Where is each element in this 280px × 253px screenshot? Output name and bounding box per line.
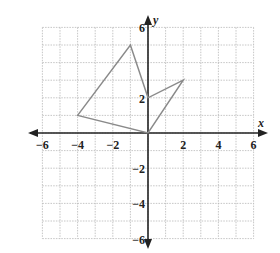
x-tick-label: −6 [36,138,49,152]
x-tick-label: −2 [106,138,119,152]
x-axis-label: x [257,116,264,130]
axes: x y [28,13,268,249]
y-tick-label: 2 [139,92,145,106]
x-tick-label: 6 [251,138,257,152]
y-axis-up-arrow-icon [144,15,152,25]
y-tick-label: −4 [132,197,145,211]
y-tick-label: 6 [139,21,145,35]
y-axis-label: y [151,13,159,27]
coordinate-plane: x y −6−4−224662−2−4−6 [0,0,280,253]
x-axis-left-arrow-icon [28,129,38,137]
x-tick-label: 2 [180,138,186,152]
x-axis-right-arrow-icon [258,129,268,137]
tick-labels: −6−4−224662−2−4−6 [36,21,257,246]
x-tick-label: −4 [71,138,84,152]
y-axis-down-arrow-icon [144,239,152,249]
x-tick-label: 4 [215,138,221,152]
y-tick-label: −6 [132,233,145,247]
y-tick-label: −2 [132,162,145,176]
